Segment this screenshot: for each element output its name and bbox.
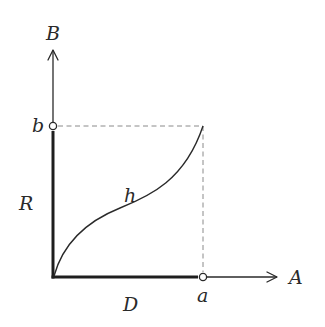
b-axis-label: B <box>45 22 60 44</box>
domain-label: D <box>122 293 138 315</box>
curve-h-label: h <box>124 184 136 206</box>
point-b-marker <box>49 122 56 129</box>
range-label: R <box>18 192 33 214</box>
point-a-marker <box>199 273 206 280</box>
function-diagram: B A b a R D h <box>0 0 325 327</box>
a-axis-label: A <box>287 266 303 288</box>
point-a-label: a <box>197 284 208 306</box>
point-b-label: b <box>32 114 44 136</box>
